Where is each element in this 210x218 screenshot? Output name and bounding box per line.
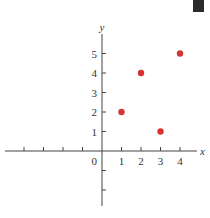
y-tick-label: 1 — [92, 126, 98, 138]
data-point — [138, 70, 144, 76]
data-points — [118, 50, 183, 134]
x-tick-label: 1 — [119, 155, 125, 167]
x-tick-label: 4 — [177, 155, 183, 167]
x-tick-label: 3 — [158, 155, 164, 167]
x-axis-label: x — [199, 145, 205, 157]
data-point — [177, 50, 183, 56]
scatter-plot: 1234123450xy — [0, 0, 210, 218]
y-axis-label: y — [99, 21, 105, 33]
x-tick-label: 2 — [138, 155, 144, 167]
data-point — [157, 128, 163, 134]
axes — [5, 34, 197, 206]
origin-label: 0 — [92, 155, 98, 167]
y-tick-label: 3 — [92, 87, 98, 99]
tick-labels: 1234123450xy — [92, 21, 206, 167]
y-tick-label: 5 — [92, 48, 98, 60]
y-tick-label: 4 — [92, 67, 98, 79]
data-point — [118, 109, 124, 115]
y-tick-label: 2 — [92, 106, 98, 118]
